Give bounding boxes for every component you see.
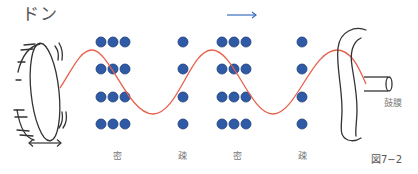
- air-particle: [241, 119, 251, 129]
- air-particle: [217, 64, 227, 74]
- compression-label: 密: [233, 152, 242, 161]
- rarefaction-label: 疎: [298, 152, 307, 161]
- air-particle: [108, 119, 118, 129]
- air-particle: [120, 37, 130, 47]
- air-particle: [229, 92, 239, 102]
- air-particle: [297, 37, 307, 47]
- air-particle: [297, 119, 307, 129]
- air-particle: [120, 119, 130, 129]
- sound-wave-curve: [60, 50, 366, 114]
- air-particle: [178, 64, 188, 74]
- air-particle: [96, 64, 106, 74]
- drum-icon: [14, 42, 66, 142]
- air-particle: [241, 64, 251, 74]
- air-particle: [96, 37, 106, 47]
- air-particle: [217, 92, 227, 102]
- air-particle: [178, 119, 188, 129]
- sound-wave-diagram: ドン 鼓膜 図7−2 密疎密疎: [0, 0, 418, 174]
- ear-canal-icon: [364, 77, 392, 91]
- air-particle: [229, 37, 239, 47]
- compression-label: 密: [113, 152, 122, 161]
- figure-caption: 図7−2: [371, 155, 402, 165]
- air-particle: [229, 119, 239, 129]
- air-particle: [297, 64, 307, 74]
- ear-icon: [338, 29, 366, 141]
- diagram-canvas: [0, 0, 418, 174]
- air-particle: [120, 92, 130, 102]
- air-particle: [96, 119, 106, 129]
- rarefaction-label: 疎: [178, 152, 187, 161]
- air-particle: [108, 92, 118, 102]
- air-particle: [241, 37, 251, 47]
- air-particles: [96, 37, 307, 129]
- air-particle: [297, 92, 307, 102]
- air-particle: [217, 37, 227, 47]
- eardrum-label: 鼓膜: [384, 99, 402, 108]
- air-particle: [96, 92, 106, 102]
- propagation-arrow-icon: [227, 12, 256, 18]
- sound-effect-text: ドン: [22, 6, 58, 23]
- air-particle: [108, 37, 118, 47]
- air-particle: [178, 37, 188, 47]
- air-particle: [120, 64, 130, 74]
- air-particle: [217, 119, 227, 129]
- air-particle: [178, 92, 188, 102]
